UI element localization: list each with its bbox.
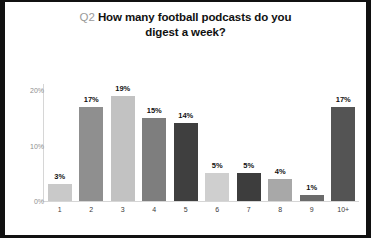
bar-value-label: 3%	[54, 172, 65, 181]
y-axis-tick-20pct: 20%	[4, 87, 44, 94]
bar-slot: 14%	[170, 62, 202, 201]
x-axis-tick-label: 2	[89, 206, 93, 213]
bar[interactable]	[174, 123, 198, 201]
bar[interactable]	[268, 179, 292, 201]
x-axis-line	[43, 201, 359, 202]
bar-value-label: 14%	[178, 111, 193, 120]
bar-slot: 19%	[107, 62, 139, 201]
x-axis-tick-label: 9	[310, 206, 314, 213]
y-axis-tick-0pct: 0%	[4, 198, 44, 205]
bar[interactable]	[300, 195, 324, 201]
bar-slot: 1%	[296, 62, 328, 201]
bar-series: 3%17%19%15%14%5%5%4%1%17%	[44, 62, 359, 201]
bar-value-label: 1%	[306, 183, 317, 192]
y-axis-tick-10pct: 10%	[4, 142, 44, 149]
bar-value-label: 5%	[243, 161, 254, 170]
bar[interactable]	[205, 173, 229, 201]
bar[interactable]	[142, 118, 166, 201]
x-axis-tick-label: 10+	[337, 206, 349, 213]
x-axis-tick-label: 3	[121, 206, 125, 213]
bar-slot: 17%	[76, 62, 108, 201]
x-axis-tick-label: 8	[278, 206, 282, 213]
x-axis-tick-label: 1	[58, 206, 62, 213]
bar[interactable]	[111, 96, 135, 201]
bar[interactable]	[237, 173, 261, 201]
bar[interactable]	[48, 184, 72, 201]
bar-slot: 17%	[328, 62, 360, 201]
bar-value-label: 17%	[84, 95, 99, 104]
bar-value-label: 17%	[336, 95, 351, 104]
bar-value-label: 4%	[275, 167, 286, 176]
x-axis-tick-label: 6	[215, 206, 219, 213]
plot-area: 0%10%20% 3%17%19%15%14%5%5%4%1%17% 12345…	[5, 2, 366, 235]
x-axis-tick-label: 4	[152, 206, 156, 213]
bar-slot: 5%	[233, 62, 265, 201]
bar-value-label: 15%	[147, 106, 162, 115]
bar[interactable]	[331, 107, 355, 201]
bar-slot: 5%	[202, 62, 234, 201]
bar-value-label: 5%	[212, 161, 223, 170]
bar-slot: 4%	[265, 62, 297, 201]
bar-slot: 3%	[44, 62, 76, 201]
bar-value-label: 19%	[115, 84, 130, 93]
x-axis-tick-label: 5	[184, 206, 188, 213]
bar-slot: 15%	[139, 62, 171, 201]
x-axis-tick-label: 7	[247, 206, 251, 213]
bar[interactable]	[79, 107, 103, 201]
chart-screenshot: Q2 How many football podcasts do you dig…	[0, 0, 371, 238]
